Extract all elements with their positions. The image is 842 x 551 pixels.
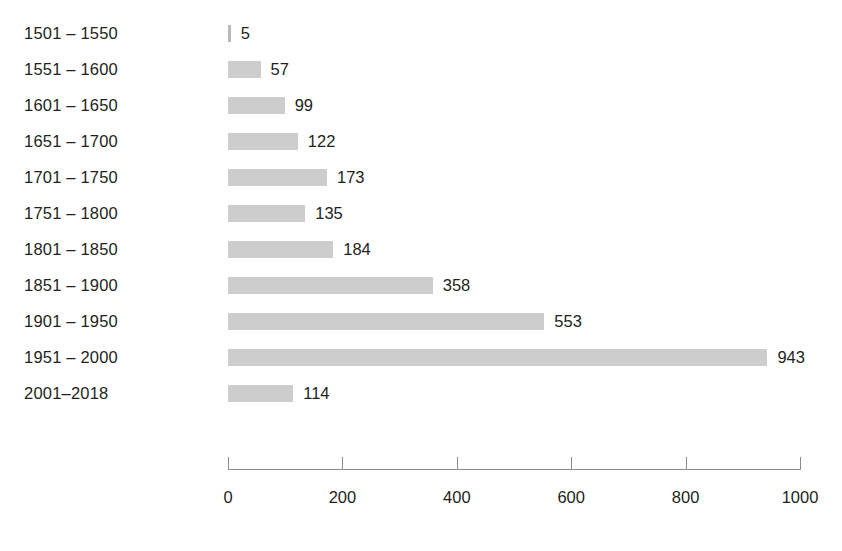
bar — [228, 133, 298, 150]
chart-plot-area: 1501 – 155051551 – 1600571601 – 16509916… — [0, 0, 842, 440]
category-label: 1801 – 1850 — [24, 231, 194, 267]
bar-wrapper — [228, 375, 293, 411]
category-label: 1551 – 1600 — [24, 51, 194, 87]
x-axis-tick — [686, 457, 687, 470]
bar-value-label: 173 — [337, 159, 365, 195]
category-label: 1601 – 1650 — [24, 87, 194, 123]
bar-wrapper — [228, 231, 333, 267]
category-label: 1501 – 1550 — [24, 15, 194, 51]
bar-wrapper — [228, 303, 544, 339]
category-label: 1751 – 1800 — [24, 195, 194, 231]
bar — [228, 277, 433, 294]
bar-row: 1601 – 165099 — [0, 87, 842, 123]
bar-wrapper — [228, 195, 305, 231]
bar — [228, 313, 544, 330]
x-axis-line — [228, 469, 800, 470]
x-axis-tick — [571, 457, 572, 470]
bar-wrapper — [228, 267, 433, 303]
bar-row: 1901 – 1950553 — [0, 303, 842, 339]
bar-value-label: 99 — [295, 87, 313, 123]
bar — [228, 349, 767, 366]
x-axis-tick — [800, 457, 801, 470]
bar-value-label: 135 — [315, 195, 343, 231]
category-label: 1701 – 1750 — [24, 159, 194, 195]
bar-row: 1551 – 160057 — [0, 51, 842, 87]
category-label: 1851 – 1900 — [24, 267, 194, 303]
bar-wrapper — [228, 87, 285, 123]
bar-value-label: 5 — [241, 15, 250, 51]
bar-row: 1801 – 1850184 — [0, 231, 842, 267]
category-label: 1651 – 1700 — [24, 123, 194, 159]
bar — [228, 25, 231, 42]
bar-value-label: 184 — [343, 231, 371, 267]
bar-wrapper — [228, 15, 231, 51]
x-axis-tick — [457, 457, 458, 470]
bar-chart: 1501 – 155051551 – 1600571601 – 16509916… — [0, 0, 842, 551]
x-axis-tick-label: 800 — [672, 484, 700, 510]
bar — [228, 97, 285, 114]
bar-wrapper — [228, 159, 327, 195]
x-axis-tick — [228, 457, 229, 470]
bar — [228, 205, 305, 222]
x-axis-tick-label: 0 — [223, 484, 232, 510]
bar — [228, 241, 333, 258]
bar-wrapper — [228, 339, 767, 375]
bar-value-label: 358 — [443, 267, 471, 303]
bar-value-label: 943 — [777, 339, 805, 375]
category-label: 1951 – 2000 — [24, 339, 194, 375]
category-label: 2001–2018 — [24, 375, 194, 411]
bar-wrapper — [228, 123, 298, 159]
bar-row: 1951 – 2000943 — [0, 339, 842, 375]
bar-row: 1701 – 1750173 — [0, 159, 842, 195]
bar-value-label: 57 — [271, 51, 289, 87]
x-axis-tick — [342, 457, 343, 470]
bar-wrapper — [228, 51, 261, 87]
x-axis-tick-label: 200 — [329, 484, 357, 510]
category-label: 1901 – 1950 — [24, 303, 194, 339]
bar — [228, 385, 293, 402]
x-axis-tick-label: 400 — [443, 484, 471, 510]
x-axis-tick-label: 1000 — [782, 484, 819, 510]
bar-value-label: 553 — [554, 303, 582, 339]
bar-row: 1651 – 1700122 — [0, 123, 842, 159]
bar — [228, 61, 261, 78]
bar — [228, 169, 327, 186]
bar-value-label: 114 — [303, 375, 329, 411]
x-axis-tick-label: 600 — [557, 484, 585, 510]
bar-row: 2001–2018114 — [0, 375, 842, 411]
bar-row: 1501 – 15505 — [0, 15, 842, 51]
bar-row: 1751 – 1800135 — [0, 195, 842, 231]
bar-row: 1851 – 1900358 — [0, 267, 842, 303]
bar-value-label: 122 — [308, 123, 336, 159]
